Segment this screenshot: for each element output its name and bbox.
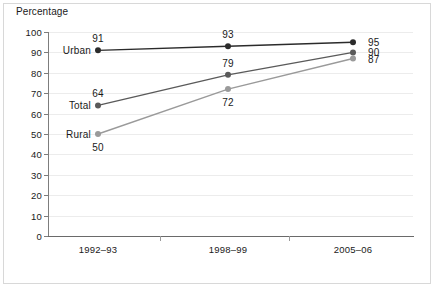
- data-point-urban-0: [95, 47, 101, 53]
- point-value-label: 50: [92, 142, 104, 153]
- series-label-rural: Rural: [66, 129, 91, 140]
- data-point-urban-1: [225, 43, 231, 49]
- point-value-label: 93: [222, 29, 234, 40]
- point-value-label: 91: [92, 33, 104, 44]
- data-point-total-2: [350, 49, 356, 55]
- data-point-total-1: [225, 72, 231, 78]
- series-label-urban: Urban: [63, 45, 91, 56]
- point-value-label: 72: [222, 97, 234, 108]
- point-value-label: 87: [368, 53, 380, 64]
- chart-figure: Percentage 0102030405060708090100 1992–9…: [0, 0, 434, 287]
- data-point-rural-0: [95, 131, 101, 137]
- data-point-rural-1: [225, 86, 231, 92]
- data-point-total-0: [95, 102, 101, 108]
- series-label-total: Total: [69, 100, 91, 111]
- data-point-urban-2: [350, 39, 356, 45]
- data-point-rural-2: [350, 56, 356, 62]
- point-value-label: 64: [92, 88, 104, 99]
- point-value-label: 79: [222, 57, 234, 68]
